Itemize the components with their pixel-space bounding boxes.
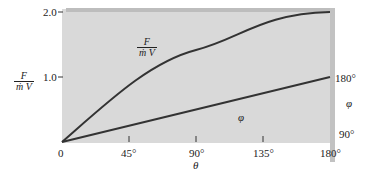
- plot-right-band: [330, 8, 335, 162]
- x-tick-label-90: 90°: [189, 148, 204, 159]
- plot-right-lower: [62, 142, 330, 143]
- x-axis-title: θ: [193, 160, 198, 171]
- force-curve-label: F ṁ V: [137, 37, 157, 58]
- x-tick-label-135: 135°: [253, 148, 274, 159]
- y2-axis-title: φ: [346, 98, 352, 109]
- x-tick-label-45: 45°: [121, 148, 136, 159]
- force-curve-label-den: ṁ V: [137, 48, 157, 58]
- y2-tick-label-180: 180°: [335, 73, 356, 84]
- y2-tick-label-90: 90°: [339, 129, 354, 140]
- y-tick-label-1: 1.0: [43, 72, 57, 83]
- x-tick-label-0: 0: [58, 148, 64, 159]
- x-tick-label-180: 180°: [320, 148, 341, 159]
- y-axis-label: F ṁ V: [14, 71, 34, 92]
- y-tick-label-2: 2.0: [43, 7, 57, 18]
- y-axis-label-den: ṁ V: [14, 82, 34, 92]
- plot-top-band: [66, 8, 332, 12]
- phi-line-label: φ: [238, 112, 244, 123]
- plot-area: [62, 9, 334, 143]
- chart-plot: [0, 0, 369, 177]
